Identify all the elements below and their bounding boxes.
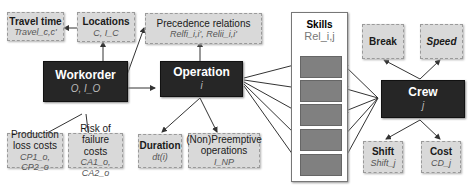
skills-container: Skills Rel_i,j — [291, 12, 348, 182]
node-symbol: O, I_O — [71, 83, 100, 95]
node-title: Crew — [408, 86, 437, 100]
node-title: Travel time — [9, 16, 61, 28]
node-title: Duration — [139, 140, 180, 152]
node-symbol: CP1_o, CP2_o — [8, 152, 62, 173]
skill-slot-3 — [300, 104, 342, 126]
precedence-relations-node: Precedence relations Relfi_i,i', Relii_i… — [145, 13, 262, 44]
node-symbol: CA1_o, CA2_o — [69, 157, 122, 178]
skills-symbol: Rel_i,j — [292, 30, 347, 42]
node-symbol: Travel_c,c' — [14, 27, 57, 37]
preemptive-ops-node: (Non)Preemptive operations I_NP — [188, 133, 260, 168]
skill-slot-2 — [300, 80, 342, 102]
node-title: Operation — [173, 66, 230, 80]
skills-title: Skills — [292, 19, 347, 30]
locations-node: Locations C, I_C — [77, 12, 135, 42]
production-loss-node: Production loss costs CP1_o, CP2_o — [7, 133, 63, 168]
node-symbol: CD_j — [431, 158, 451, 168]
node-symbol: C, I_C — [93, 28, 119, 38]
crew-node: Crew j — [381, 80, 465, 118]
node-symbol: Shift_j — [370, 158, 395, 168]
duration-node: Duration dt(i) — [138, 134, 182, 168]
break-node: Break — [362, 24, 404, 59]
node-symbol: Relfi_i,i', Relii_i,i' — [170, 29, 237, 39]
node-title: Precedence relations — [157, 18, 251, 30]
node-symbol: dt(i) — [152, 152, 168, 162]
node-title: Break — [369, 36, 397, 48]
shift-node: Shift Shift_j — [363, 141, 403, 173]
node-title: Cost — [430, 146, 452, 158]
node-title: Locations — [82, 16, 129, 28]
node-title: Risk of failure costs — [69, 123, 122, 158]
node-title: Production loss costs — [8, 129, 62, 152]
node-title: Speed — [426, 36, 456, 48]
cost-node: Cost CD_j — [421, 141, 461, 173]
skill-slot-5 — [300, 154, 342, 176]
node-title: Workorder — [55, 69, 115, 83]
node-title: (Non)Preemptive operations — [186, 134, 262, 157]
node-symbol: j — [422, 100, 424, 112]
skill-slot-4 — [300, 129, 342, 151]
travel-time-node: Travel time Travel_c,c' — [7, 12, 64, 41]
workorder-node: Workorder O, I_O — [43, 61, 128, 102]
node-symbol: I_NP — [214, 157, 234, 167]
operation-node: Operation i — [160, 61, 243, 97]
node-title: Shift — [372, 146, 394, 158]
failure-risk-node: Risk of failure costs CA1_o, CA2_o — [68, 133, 123, 168]
node-symbol: i — [200, 80, 202, 92]
skill-slot-1 — [300, 56, 342, 78]
speed-node: Speed — [420, 24, 463, 59]
